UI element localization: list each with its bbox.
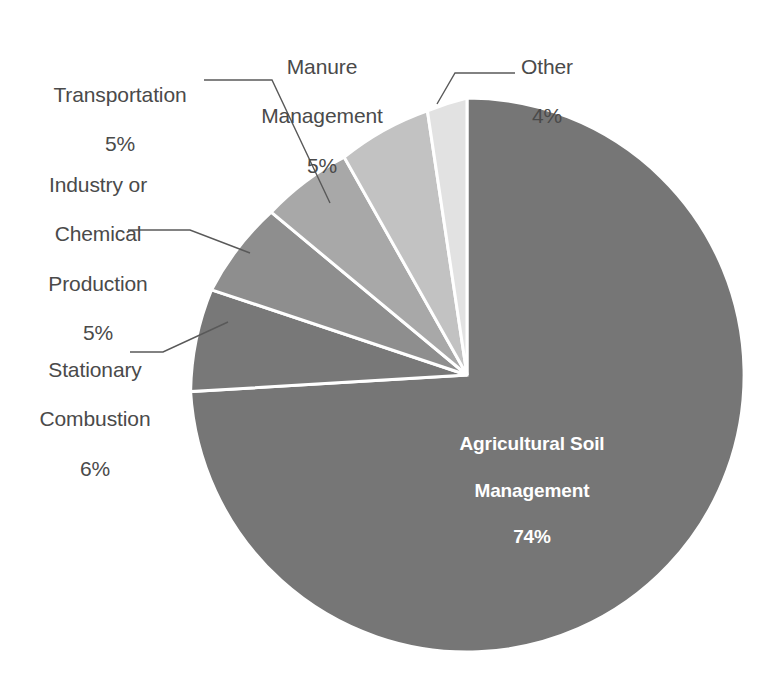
label-transportation-line1: Transportation xyxy=(30,83,210,108)
pie-chart-figure: Transportation 5% Manure Management 5% O… xyxy=(0,0,766,687)
label-agricultural-percent: 74% xyxy=(432,525,632,548)
label-manure-management-line1: Manure xyxy=(238,55,406,80)
label-manure-management-percent: 5% xyxy=(238,154,406,179)
label-industry-line1: Industry or xyxy=(18,173,178,198)
label-stationary-line1: Stationary xyxy=(14,358,176,383)
label-manure-management-line2: Management xyxy=(238,104,406,129)
label-manure-management: Manure Management 5% xyxy=(238,30,406,203)
label-stationary-percent: 6% xyxy=(14,457,176,482)
label-other: Other 4% xyxy=(482,30,612,154)
label-industry-line2: Chemical xyxy=(18,222,178,247)
label-other-percent: 4% xyxy=(482,104,612,129)
label-other-line1: Other xyxy=(482,55,612,80)
label-agricultural-line2: Management xyxy=(432,479,632,502)
label-stationary-combustion: Stationary Combustion 6% xyxy=(14,333,176,506)
label-stationary-line2: Combustion xyxy=(14,407,176,432)
label-agricultural-line1: Agricultural Soil xyxy=(432,432,632,455)
label-industry-line3: Production xyxy=(18,272,178,297)
label-agricultural-soil-management: Agricultural Soil Management 74% xyxy=(432,409,632,571)
